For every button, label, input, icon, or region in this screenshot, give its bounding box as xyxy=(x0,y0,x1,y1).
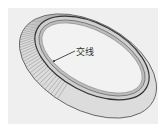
intersection-label: 交线 xyxy=(76,47,94,57)
figure-canvas: 交线 xyxy=(0,0,165,130)
ring-diagram xyxy=(0,0,165,130)
leader-dot xyxy=(53,60,55,62)
